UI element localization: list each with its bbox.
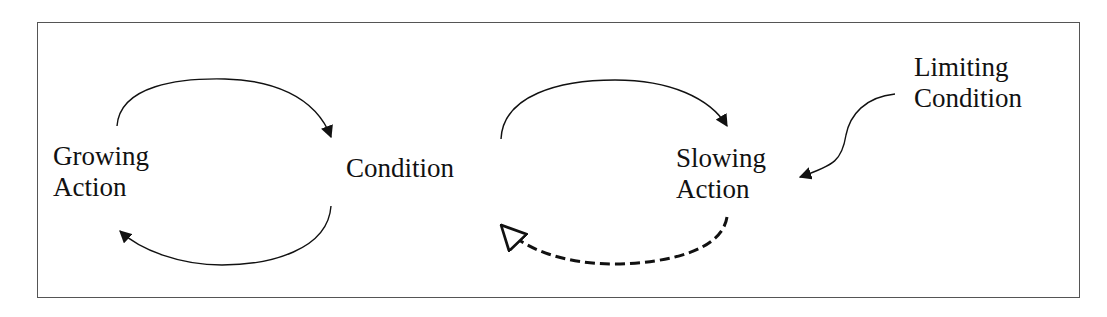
node-condition: Condition <box>346 153 454 184</box>
arrow-condition-to-growing <box>120 206 331 265</box>
node-growing-action-line1: Growing <box>53 141 149 172</box>
node-slowing-action-line1: Slowing <box>676 143 766 174</box>
arrow-growing-to-condition <box>117 79 331 137</box>
arrow-condition-to-slowing <box>501 80 727 139</box>
node-limiting-condition-line2: Condition <box>914 83 1022 114</box>
loop-arrows <box>0 0 1107 317</box>
node-slowing-action: Slowing Action <box>676 143 766 205</box>
arrow-slowing-to-condition-dashed <box>502 217 727 264</box>
node-limiting-condition: Limiting Condition <box>914 52 1022 114</box>
node-growing-action-line2: Action <box>53 172 149 203</box>
node-condition-line1: Condition <box>346 153 454 184</box>
node-growing-action: Growing Action <box>53 141 149 203</box>
node-slowing-action-line2: Action <box>676 174 766 205</box>
node-limiting-condition-line1: Limiting <box>914 52 1022 83</box>
arrow-limiting-to-slowing <box>800 94 895 177</box>
